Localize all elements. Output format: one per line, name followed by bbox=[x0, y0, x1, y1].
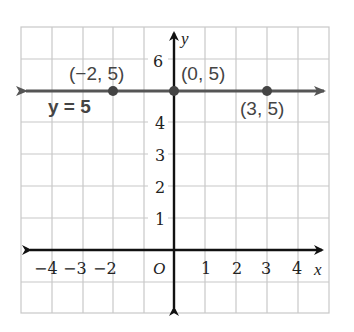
x-tick-2: 2 bbox=[232, 259, 242, 278]
point-3-5 bbox=[262, 86, 272, 96]
origin-label: O bbox=[153, 259, 165, 278]
x-tick-neg4: −4 bbox=[34, 259, 58, 278]
x-tick-3: 3 bbox=[261, 259, 271, 278]
point-0-5 bbox=[169, 86, 179, 96]
point-neg2-5 bbox=[108, 86, 118, 96]
x-tick-4: 4 bbox=[292, 259, 302, 278]
label-point-neg2-5: (−2, 5) bbox=[69, 63, 124, 84]
label-point-3-5: (3, 5) bbox=[240, 98, 284, 119]
label-point-0-5: (0, 5) bbox=[181, 63, 225, 84]
coordinate-plane: (−2, 5) (0, 5) (3, 5) y = 5 6 4 3 2 1 −4… bbox=[0, 0, 354, 332]
y-tick-2: 2 bbox=[155, 178, 165, 197]
y-tick-1: 1 bbox=[155, 210, 165, 229]
y-tick-3: 3 bbox=[155, 146, 165, 165]
label-masks bbox=[148, 50, 168, 228]
x-tick-neg3: −3 bbox=[63, 259, 87, 278]
equation-label: y = 5 bbox=[48, 96, 91, 117]
y-tick-6: 6 bbox=[153, 52, 163, 71]
x-axis-label: x bbox=[313, 260, 322, 279]
x-tick-neg2: −2 bbox=[93, 259, 117, 278]
y-tick-4: 4 bbox=[155, 114, 165, 133]
y-axis-label: y bbox=[179, 29, 189, 48]
x-tick-1: 1 bbox=[201, 259, 211, 278]
